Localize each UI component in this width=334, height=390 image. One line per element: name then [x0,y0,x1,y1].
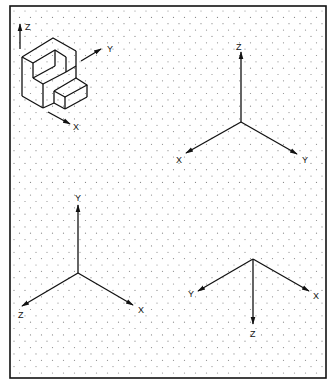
y-axis-arrow [198,259,253,291]
y-axis-label: Y [188,289,194,299]
object-x-label: X [73,122,79,132]
axis-triad-bottom-left: YZX [18,193,144,320]
z-axis-label: Z [18,310,24,320]
object-y-label: Y [107,44,113,54]
x-axis-arrow [186,122,241,153]
isometric-block-object [22,38,87,109]
object-x-axis-arrow [48,112,70,124]
object-axis-labels: Z Y X [25,22,113,132]
isometric-object-view [20,24,101,124]
x-axis-arrow [253,259,309,291]
y-axis-label: Y [302,155,308,165]
drawing-sheet: Z Y X ZXYYZXZYX [0,0,334,390]
x-axis-label: X [138,305,144,315]
object-y-axis-arrow [81,49,101,61]
x-axis-label: X [313,291,319,301]
isometric-dot-grid [13,10,322,373]
object-z-label: Z [25,22,31,32]
z-axis-label: Z [236,42,242,52]
axis-triad-top-right: ZXY [176,42,308,165]
y-axis-label: Y [75,193,81,203]
z-axis-label: Z [250,329,256,339]
drawing-canvas: Z Y X ZXYYZXZYX [0,0,334,390]
axis-triad-bottom-right: ZYX [188,259,319,339]
axis-triads: ZXYYZXZYX [18,42,319,339]
x-axis-label: X [176,155,182,165]
x-axis-arrow [78,273,133,305]
z-axis-arrow [22,273,78,306]
